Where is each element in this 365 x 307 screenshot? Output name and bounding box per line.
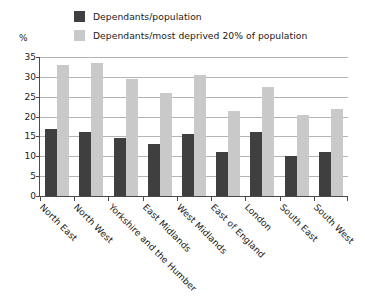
bar <box>285 156 297 196</box>
bar <box>194 75 206 196</box>
y-tick-label: 30 <box>2 72 36 81</box>
x-tick-label: South West <box>312 202 356 246</box>
x-tick-mark <box>314 197 315 201</box>
y-tick-label: 20 <box>2 112 36 121</box>
x-tick-mark <box>280 197 281 201</box>
y-axis-ticks: 05101520253035 <box>0 57 36 196</box>
y-tick-label: 0 <box>2 192 36 201</box>
x-tick-mark <box>245 197 246 201</box>
x-tick-mark <box>143 197 144 201</box>
y-tick-label: 5 <box>2 172 36 181</box>
x-tick-mark <box>40 197 41 201</box>
legend-label-dark: Dependants/population <box>93 11 202 22</box>
bar-group <box>245 57 279 196</box>
bar <box>148 144 160 196</box>
bar <box>228 111 240 196</box>
bar <box>331 109 343 196</box>
x-tick-mark <box>74 197 75 201</box>
bar-groups <box>40 57 348 196</box>
chart-legend: Dependants/population Dependants/most de… <box>74 8 354 46</box>
legend-swatch-dark <box>74 11 85 22</box>
bar-group <box>40 57 74 196</box>
bar <box>250 132 262 196</box>
bar <box>160 93 172 196</box>
x-tick-mark <box>211 197 212 201</box>
bar <box>262 87 274 196</box>
bar-group <box>314 57 348 196</box>
x-axis-labels: North EastNorth WestYorkshire and the Hu… <box>40 202 348 302</box>
bar <box>319 152 331 196</box>
bar <box>91 63 103 196</box>
bar-group <box>211 57 245 196</box>
x-tick-mark <box>177 197 178 201</box>
plot-area <box>40 57 348 196</box>
bar <box>182 134 194 196</box>
bar <box>297 115 309 196</box>
legend-item-dependants-deprived: Dependants/most deprived 20% of populati… <box>74 27 354 44</box>
bar-group <box>74 57 108 196</box>
bar <box>126 79 138 196</box>
bar <box>45 129 57 197</box>
bar <box>114 138 126 196</box>
y-tick-label: 25 <box>2 92 36 101</box>
bar <box>216 152 228 196</box>
y-tick-label: 15 <box>2 132 36 141</box>
legend-item-dependants-population: Dependants/population <box>74 8 354 25</box>
x-tick-mark <box>108 197 109 201</box>
y-tick-label: 10 <box>2 152 36 161</box>
bar-group <box>108 57 142 196</box>
y-tick-label: 35 <box>2 53 36 62</box>
x-tick-label: London <box>243 202 274 233</box>
legend-label-light: Dependants/most deprived 20% of populati… <box>93 30 307 41</box>
bar-group <box>177 57 211 196</box>
x-axis-ticks <box>40 197 348 201</box>
bar <box>79 132 91 196</box>
y-axis-unit-label: % <box>19 33 28 43</box>
bar-group <box>143 57 177 196</box>
x-tick-mark <box>347 197 348 201</box>
legend-swatch-light <box>74 30 85 41</box>
bar-group <box>280 57 314 196</box>
bar <box>57 65 69 196</box>
